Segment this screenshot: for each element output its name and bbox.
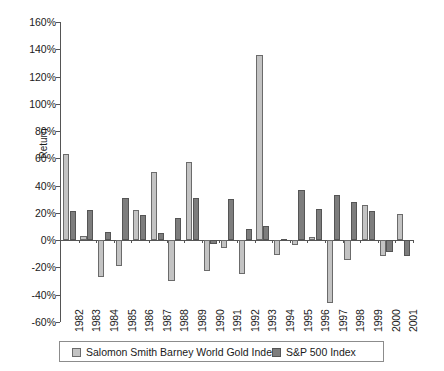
x-axis-label-1989: 1989	[197, 309, 207, 332]
bar-1997-sp500	[334, 195, 340, 240]
bar-1994-sp500	[281, 239, 287, 241]
bar-1987-sp500	[158, 233, 164, 240]
x-axis-label-1991: 1991	[232, 309, 242, 332]
bar-1999-sp500	[369, 211, 375, 240]
bar-2001-gold-index	[397, 214, 403, 240]
plot-area	[61, 22, 413, 322]
x-axis-tick-mark	[131, 240, 132, 243]
y-axis-tick-label: 40%	[12, 181, 56, 191]
bar-1983-gold-index	[80, 236, 86, 240]
bar-1982-sp500	[70, 211, 76, 240]
x-axis-tick-mark	[237, 240, 238, 243]
bar-2001-sp500	[404, 240, 410, 256]
x-axis-label-1997: 1997	[338, 309, 348, 332]
legend-swatch-icon	[272, 348, 281, 357]
x-axis-tick-mark	[360, 240, 361, 243]
y-axis-ticks: 160%140%120%100%80%60%40%20%0%-20%-40%-6…	[0, 0, 56, 371]
bar-1984-sp500	[105, 232, 111, 240]
bar-1995-sp500	[298, 190, 304, 240]
y-axis-tick-label: -20%	[12, 262, 56, 272]
y-axis-tick-label: -40%	[12, 290, 56, 300]
y-axis-tick-label: 60%	[12, 153, 56, 163]
y-axis-tick-label: 140%	[12, 44, 56, 54]
x-axis-label-1985: 1985	[127, 309, 137, 332]
bar-1989-gold-index	[186, 162, 192, 240]
x-axis-tick-mark	[343, 240, 344, 243]
x-axis-label-1984: 1984	[109, 309, 119, 332]
bar-1985-gold-index	[116, 240, 122, 266]
bar-1985-sp500	[122, 198, 128, 240]
bar-1983-sp500	[87, 210, 93, 240]
y-axis-tick-label: 0%	[12, 235, 56, 245]
bar-1994-gold-index	[274, 240, 280, 255]
bar-1991-gold-index	[221, 240, 227, 248]
y-axis-tick-label: 120%	[12, 72, 56, 82]
bar-1998-sp500	[351, 202, 357, 240]
bar-1988-gold-index	[168, 240, 174, 281]
x-axis-tick-mark	[219, 240, 220, 243]
bar-chart: Return 160%140%120%100%80%60%40%20%0%-20…	[0, 0, 444, 371]
x-axis-label-1994: 1994	[285, 309, 295, 332]
x-axis-tick-mark	[96, 240, 97, 243]
bar-1989-sp500	[193, 198, 199, 240]
bar-1998-gold-index	[344, 240, 350, 260]
y-axis-tick-label: 20%	[12, 208, 56, 218]
legend-item-sp500[interactable]: S&P 500 Index	[272, 345, 356, 359]
x-axis-tick-mark	[307, 240, 308, 243]
x-axis-tick-mark	[79, 240, 80, 243]
x-axis-tick-mark	[325, 240, 326, 243]
y-axis-tick-label: 100%	[12, 99, 56, 109]
bar-1990-sp500	[210, 240, 216, 244]
x-axis-tick-mark	[413, 240, 414, 243]
bar-1993-sp500	[263, 226, 269, 240]
bar-1992-sp500	[246, 229, 252, 240]
x-axis-tick-mark	[167, 240, 168, 243]
x-axis-tick-mark	[272, 240, 273, 243]
bar-1996-gold-index	[309, 237, 315, 240]
x-axis-tick-mark	[255, 240, 256, 243]
x-axis-label-1986: 1986	[144, 309, 154, 332]
x-axis-label-1998: 1998	[355, 309, 365, 332]
bar-1987-gold-index	[151, 172, 157, 240]
legend-item-gold-index[interactable]: Salomon Smith Barney World Gold Index	[72, 345, 277, 359]
legend-label: Salomon Smith Barney World Gold Index	[86, 347, 277, 358]
x-axis-tick-mark	[290, 240, 291, 243]
y-axis-tick-label: -60%	[12, 317, 56, 327]
x-axis-tick-mark	[395, 240, 396, 243]
x-axis-label-1987: 1987	[162, 309, 172, 332]
y-axis-tick-label: 80%	[12, 126, 56, 136]
bar-1982-gold-index	[63, 154, 69, 240]
y-axis-tick-label: 160%	[12, 17, 56, 27]
x-axis-label-1983: 1983	[91, 309, 101, 332]
x-axis-tick-mark	[184, 240, 185, 243]
bar-2000-sp500	[386, 240, 392, 252]
x-axis-label-1988: 1988	[179, 309, 189, 332]
x-axis-tick-mark	[202, 240, 203, 243]
x-axis-label-2001: 2001	[408, 309, 418, 332]
bar-1984-gold-index	[98, 240, 104, 277]
chart-legend: Salomon Smith Barney World Gold IndexS&P…	[59, 341, 384, 362]
x-axis-tick-mark	[149, 240, 150, 243]
legend-label: S&P 500 Index	[286, 347, 356, 358]
bar-1999-gold-index	[362, 205, 368, 240]
x-axis-label-2000: 2000	[391, 309, 401, 332]
bar-1993-gold-index	[256, 55, 262, 240]
x-axis-label-1996: 1996	[320, 309, 330, 332]
bar-2000-gold-index	[380, 240, 386, 256]
bar-1986-gold-index	[133, 210, 139, 240]
x-axis-tick-mark	[114, 240, 115, 243]
x-axis-label-1993: 1993	[267, 309, 277, 332]
x-axis-label-1995: 1995	[303, 309, 313, 332]
x-axis-label-1982: 1982	[74, 309, 84, 332]
x-axis-label-1992: 1992	[250, 309, 260, 332]
x-axis-tick-mark	[378, 240, 379, 243]
x-axis-label-1999: 1999	[373, 309, 383, 332]
legend-swatch-icon	[72, 348, 81, 357]
bar-1992-gold-index	[239, 240, 245, 274]
bar-1997-gold-index	[327, 240, 333, 303]
bar-1990-gold-index	[204, 240, 210, 271]
x-axis-label-1990: 1990	[215, 309, 225, 332]
bar-1995-gold-index	[292, 240, 298, 245]
bar-1996-sp500	[316, 209, 322, 240]
bar-1991-sp500	[228, 199, 234, 240]
